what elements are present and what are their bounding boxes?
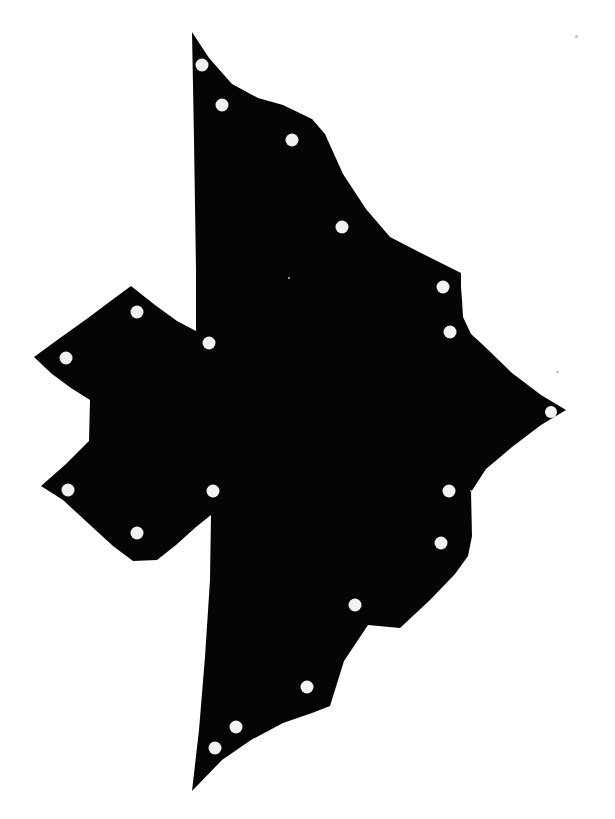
mounting-hole <box>131 527 144 540</box>
mounting-hole <box>443 485 456 498</box>
mounting-hole <box>203 337 216 350</box>
drawing-canvas <box>0 0 615 819</box>
mounting-hole <box>216 99 229 112</box>
mounting-hole <box>62 484 75 497</box>
mounting-hole <box>435 537 448 550</box>
mounting-hole <box>444 326 457 339</box>
mounting-hole <box>131 306 144 319</box>
mounting-hole <box>60 352 73 365</box>
mounting-hole <box>349 599 362 612</box>
mounting-hole <box>207 485 220 498</box>
mounting-hole <box>286 134 299 147</box>
mounting-hole <box>437 281 450 294</box>
mounting-hole <box>545 406 557 418</box>
part-silhouette-svg <box>0 0 615 819</box>
mounting-hole <box>230 721 243 734</box>
mounting-hole <box>336 221 349 234</box>
mounting-hole <box>301 681 314 694</box>
mounting-hole <box>209 742 222 755</box>
mounting-hole <box>196 59 209 72</box>
